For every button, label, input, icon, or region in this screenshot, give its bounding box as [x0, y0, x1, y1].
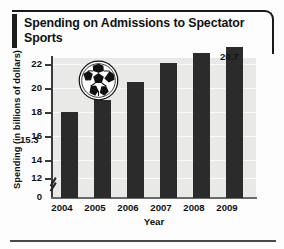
y-axis-label: Spending (in billions of dollars) — [12, 57, 22, 189]
x-tick-label-2009: 2009 — [209, 202, 245, 213]
y-tick-label-18: 18 — [20, 106, 42, 117]
x-tick-label-2006: 2006 — [110, 202, 146, 213]
bar-2006 — [127, 82, 144, 198]
bar-2009 — [226, 47, 243, 198]
bar-2004 — [61, 112, 78, 198]
y-tick-18 — [45, 112, 52, 114]
bottom-divider — [10, 240, 276, 242]
page-title: Spending on Admissions to Spectator Spor… — [24, 16, 268, 46]
bar-2005 — [94, 100, 111, 198]
x-tick-label-2007: 2007 — [143, 202, 179, 213]
bar-2008 — [193, 53, 210, 198]
x-axis-label: Year — [52, 216, 256, 227]
bar-label-2004: 15.3 — [20, 134, 39, 145]
y-tick-label-20: 20 — [20, 82, 42, 93]
bar-2007 — [160, 63, 177, 198]
y-tick-label-22: 22 — [20, 58, 42, 69]
x-tick-label-2005: 2005 — [77, 202, 113, 213]
soccer-ball-icon — [78, 60, 119, 101]
y-tick-14 — [45, 160, 52, 162]
x-tick-label-2004: 2004 — [44, 202, 80, 213]
y-tick-label-12: 12 — [20, 172, 42, 183]
y-tick-16 — [45, 136, 52, 138]
y-tick-20 — [45, 88, 52, 90]
y-tick-label-0: 0 — [20, 191, 42, 202]
bar-label-2009: 20.7 — [220, 51, 239, 62]
y-tick-label-14: 14 — [20, 154, 42, 165]
x-tick-label-2008: 2008 — [176, 202, 212, 213]
y-tick-22 — [45, 64, 52, 66]
bar-chart: Spending (in billions of dollars) 22 20 … — [0, 56, 284, 221]
chart-page: Spending on Admissions to Spectator Spor… — [0, 0, 284, 249]
title-accent-bar — [12, 14, 17, 48]
